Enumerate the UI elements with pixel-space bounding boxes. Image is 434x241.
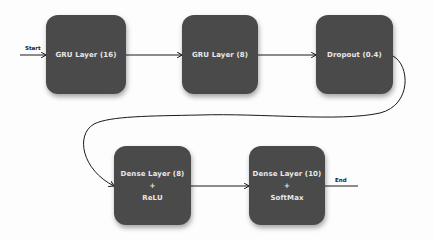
node-label-plus: + <box>284 180 290 192</box>
node-dense-layer-10-softmax[interactable]: Dense Layer (10) + SoftMax <box>249 146 325 225</box>
node-dropout[interactable]: Dropout (0.4) <box>316 15 393 94</box>
node-label-plus: + <box>150 180 156 192</box>
node-label-line-3: ReLU <box>142 192 162 204</box>
end-label: End <box>335 177 347 183</box>
node-label-line-1: Dense Layer (8) <box>121 168 185 180</box>
node-gru-layer-8[interactable]: GRU Layer (8) <box>182 15 258 94</box>
node-label-line-1: Dense Layer (10) <box>253 168 322 180</box>
node-label: GRU Layer (16) <box>56 49 117 61</box>
start-label: Start <box>25 45 41 51</box>
node-gru-layer-16[interactable]: GRU Layer (16) <box>46 15 126 94</box>
node-label-line-3: SoftMax <box>270 192 303 204</box>
node-dense-layer-8-relu[interactable]: Dense Layer (8) + ReLU <box>114 146 191 225</box>
node-label: Dropout (0.4) <box>327 49 382 61</box>
node-label: GRU Layer (8) <box>192 49 248 61</box>
flowchart-canvas: Start End GRU Layer (16) GRU Layer (8) D… <box>0 0 434 241</box>
